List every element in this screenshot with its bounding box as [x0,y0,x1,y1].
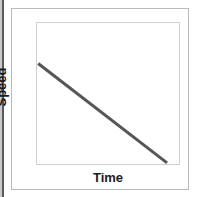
speed-time-figure: Speed Time [0,0,200,197]
speed-trend-line [38,63,167,162]
y-axis-label: Speed [0,52,10,122]
x-axis-label: Time [36,170,180,185]
plot-canvas [36,22,180,165]
